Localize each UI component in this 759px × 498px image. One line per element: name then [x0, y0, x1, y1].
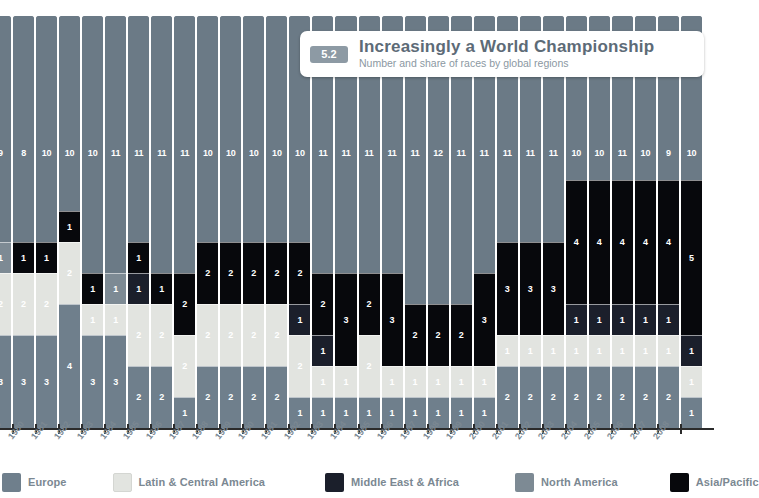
bar-segment-latin: 1 [335, 366, 356, 397]
bar-total-label: 10 [566, 148, 587, 158]
bar-segment-europe: 2 [266, 366, 287, 428]
bar-unfilled-top: 8 [13, 16, 34, 242]
bar-segment-latin: 2 [243, 304, 264, 366]
legend-item-mea[interactable]: Middle East & Africa [325, 473, 459, 492]
bar-unfilled-top: 10 [243, 16, 264, 242]
bar-segment-asia: 3 [520, 242, 541, 335]
stacked-bar: 104112 [635, 16, 656, 428]
bar-total-label: 11 [335, 148, 356, 158]
bar-segment-europe: 2 [543, 366, 564, 428]
bar-column: 8123 [12, 16, 35, 428]
legend-item-latin[interactable]: Latin & Central America [113, 473, 266, 492]
bar-segment-latin: 1 [520, 335, 541, 366]
bar-segment-mea: 1 [589, 304, 610, 335]
bar-total-label: 9 [0, 148, 11, 158]
bar-segment-asia: 1 [13, 242, 34, 273]
legend-item-asia[interactable]: Asia/Pacific [670, 473, 759, 492]
bar-segment-latin: 1 [312, 366, 333, 397]
legend-item-europe[interactable]: Europe [2, 473, 67, 492]
bar-segment-asia: 4 [566, 180, 587, 304]
bar-segment-asia: 2 [405, 304, 426, 366]
legend-swatch-europe [2, 473, 21, 492]
bar-column: 104112 [565, 16, 588, 428]
bar-segment-latin: 2 [266, 304, 287, 366]
bar-total-label: 10 [220, 148, 241, 158]
stacked-bar: 11113 [105, 16, 126, 428]
bar-column: 11221 [358, 16, 381, 428]
bar-segment-europe: 3 [0, 335, 11, 428]
stacked-bar: 8123 [13, 16, 34, 428]
bar-total-label: 10 [82, 148, 103, 158]
stacked-bar: 105111 [681, 16, 702, 428]
bar-segment-latin: 1 [405, 366, 426, 397]
bar-segment-latin: 2 [128, 304, 149, 366]
bar-segment-latin: 1 [681, 366, 702, 397]
stacked-bar: 114112 [612, 16, 633, 428]
bar-segment-europe: 3 [13, 335, 34, 428]
stacked-bar: 10222 [197, 16, 218, 428]
bar-segment-asia: 2 [359, 273, 380, 335]
bar-segment-latin: 2 [220, 304, 241, 366]
bar-segment-asia: 2 [174, 273, 195, 335]
stacked-bar: 11221 [174, 16, 195, 428]
bar-total-label: 8 [13, 148, 34, 158]
bar-segment-asia: 2 [220, 242, 241, 304]
bar-segment-mea: 1 [612, 304, 633, 335]
bar-segment-latin: 2 [59, 242, 80, 304]
chart-legend: EuropeLatin & Central AmericaMiddle East… [0, 466, 714, 498]
bar-segment-asia: 1 [82, 273, 103, 304]
bar-segment-mea: 1 [128, 273, 149, 304]
bar-unfilled-top: 10 [220, 16, 241, 242]
legend-label-north: North America [541, 476, 618, 488]
stacked-bar: 11312 [497, 16, 518, 428]
bar-segment-europe: 2 [635, 366, 656, 428]
bar-segment-europe: 2 [566, 366, 587, 428]
bar-column: 11113 [104, 16, 127, 428]
bar-segment-europe: 3 [82, 335, 103, 428]
bar-segment-europe: 2 [243, 366, 264, 428]
bar-total-label: 10 [243, 148, 264, 158]
stacked-bar: 11122 [151, 16, 172, 428]
bar-segment-asia: 4 [612, 180, 633, 304]
bar-segment-asia: 1 [36, 242, 57, 273]
stacked-bar: 10124 [59, 16, 80, 428]
bar-column: 9123 [0, 16, 12, 428]
bar-segment-latin: 1 [474, 366, 495, 397]
bar-segment-north: 1 [105, 273, 126, 304]
bar-segment-europe: 4 [59, 304, 80, 428]
bar-total-label: 11 [382, 148, 403, 158]
bar-total-label: 11 [151, 148, 172, 158]
bar-segment-europe: 2 [589, 366, 610, 428]
bar-segment-asia: 5 [681, 180, 702, 335]
bar-column: 10123 [35, 16, 58, 428]
bar-total-label: 11 [497, 148, 518, 158]
bar-total-label: 11 [543, 148, 564, 158]
bar-segment-europe: 3 [36, 335, 57, 428]
bar-segment-mea: 1 [289, 304, 310, 335]
legend-swatch-mea [325, 473, 344, 492]
stacked-bar: 10123 [36, 16, 57, 428]
bar-column: 11211 [450, 16, 473, 428]
bar-segment-latin: 2 [13, 273, 34, 335]
bar-segment-latin: 1 [543, 335, 564, 366]
stacked-bar: 94112 [658, 16, 679, 428]
bar-segment-asia: 2 [197, 242, 218, 304]
bar-segment-latin: 1 [105, 304, 126, 335]
stacked-bar: 11312 [543, 16, 564, 428]
bar-segment-asia: 2 [289, 242, 310, 304]
legend-item-north[interactable]: North America [515, 473, 618, 492]
bar-segment-latin: 2 [0, 273, 11, 335]
bar-segment-asia: 2 [451, 304, 472, 366]
bar-unfilled-top: 9 [0, 16, 11, 242]
bar-total-label: 12 [428, 148, 449, 158]
bar-column: 10113 [81, 16, 104, 428]
bar-total-label: 10 [59, 148, 80, 158]
stacked-bar: 104112 [589, 16, 610, 428]
bar-segment-latin: 1 [497, 335, 518, 366]
bar-unfilled-top: 11 [128, 16, 149, 242]
stacked-bar: 10222 [266, 16, 287, 428]
legend-swatch-north [515, 473, 534, 492]
bar-column: 10222 [196, 16, 219, 428]
bar-total-label: 11 [128, 148, 149, 158]
bar-column: 11122 [150, 16, 173, 428]
